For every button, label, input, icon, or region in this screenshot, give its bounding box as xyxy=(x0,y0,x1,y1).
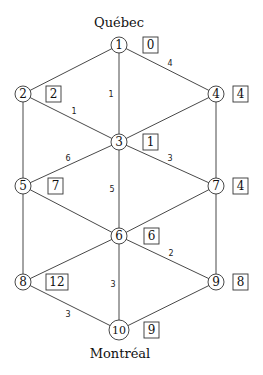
weight-3-6: 5 xyxy=(109,185,114,194)
node-3-label: 3 xyxy=(115,135,123,149)
node-7: 7 xyxy=(208,178,224,194)
weight-1-4: 4 xyxy=(167,59,172,68)
value-box-6: 6 xyxy=(144,228,159,244)
node-6: 6 xyxy=(111,228,127,244)
node-10: 10 xyxy=(109,320,129,340)
value-box-3: 1 xyxy=(143,134,158,150)
weight-2-3: 1 xyxy=(71,107,76,116)
node-1-label: 1 xyxy=(115,38,123,52)
value-3: 1 xyxy=(147,135,155,149)
node-3: 3 xyxy=(111,134,127,150)
value-2: 2 xyxy=(50,87,58,101)
value-box-5: 7 xyxy=(48,178,63,194)
node-4-label: 4 xyxy=(212,87,220,101)
value-box-4: 4 xyxy=(233,86,248,102)
edge-4-3 xyxy=(119,94,216,142)
node-2: 2 xyxy=(15,86,31,102)
top-city-label: Québec xyxy=(94,15,144,30)
value-box-10: 9 xyxy=(144,322,159,338)
node-5: 5 xyxy=(15,178,31,194)
edge-1-2 xyxy=(23,45,119,94)
bottom-city-label: Montréal xyxy=(90,346,151,361)
value-10: 9 xyxy=(148,323,156,337)
value-9: 8 xyxy=(237,275,245,289)
node-5-label: 5 xyxy=(19,179,27,193)
node-8-label: 8 xyxy=(19,275,27,289)
weight-3-7: 3 xyxy=(167,154,172,163)
node-9: 9 xyxy=(208,274,224,290)
node-4: 4 xyxy=(208,86,224,102)
node-9-label: 9 xyxy=(212,275,220,289)
value-7: 4 xyxy=(237,179,245,193)
value-4: 4 xyxy=(237,87,245,101)
value-box-9: 8 xyxy=(233,274,248,290)
edge-weights: 4 1 1 6 3 5 2 3 3 xyxy=(65,59,173,319)
edge-7-6 xyxy=(119,186,216,236)
node-6-label: 6 xyxy=(115,229,123,243)
edge-6-8 xyxy=(23,236,119,282)
edge-6-9 xyxy=(119,236,216,282)
graph-diagram: 4 1 1 6 3 5 2 3 3 1 2 3 4 5 xyxy=(0,0,263,375)
node-1: 1 xyxy=(111,37,127,53)
node-8: 8 xyxy=(15,274,31,290)
node-10-label: 10 xyxy=(112,324,126,337)
weight-3-5: 6 xyxy=(65,154,70,163)
weight-8-10: 3 xyxy=(65,310,70,319)
weight-1-3: 1 xyxy=(108,90,113,99)
edge-3-7 xyxy=(119,142,216,186)
value-box-1: 0 xyxy=(143,37,158,53)
value-box-2: 2 xyxy=(46,86,61,102)
value-1: 0 xyxy=(147,38,155,52)
value-8: 12 xyxy=(49,275,64,289)
edge-1-4 xyxy=(119,45,216,94)
edge-2-3 xyxy=(23,94,119,142)
edge-3-5 xyxy=(23,142,119,186)
node-2-label: 2 xyxy=(19,87,27,101)
value-6: 6 xyxy=(148,229,156,243)
value-5: 7 xyxy=(52,179,60,193)
weight-6-9: 2 xyxy=(168,249,173,258)
edge-9-10 xyxy=(119,282,216,330)
value-box-8: 12 xyxy=(46,274,68,290)
node-7-label: 7 xyxy=(212,179,220,193)
edge-5-6 xyxy=(23,186,119,236)
edge-8-10 xyxy=(23,282,119,330)
value-box-7: 4 xyxy=(233,178,248,194)
weight-6-10: 3 xyxy=(110,280,115,289)
